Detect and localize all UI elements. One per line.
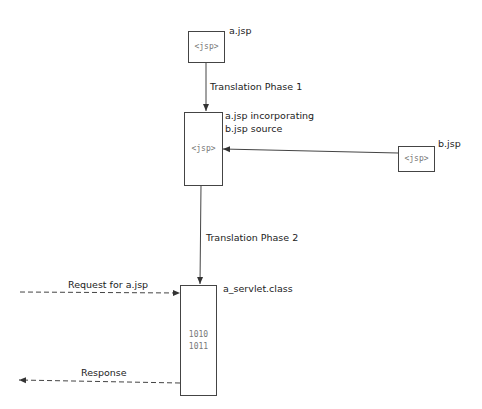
b-jsp-node: <jsp> bbox=[398, 146, 435, 172]
combined-label-line1: a.jsp incorporating bbox=[225, 110, 314, 122]
response-arrow bbox=[19, 380, 180, 383]
phase2-label: Translation Phase 2 bbox=[206, 232, 298, 244]
a-jsp-node: <jsp> bbox=[188, 31, 225, 63]
request-label: Request for a.jsp bbox=[68, 279, 148, 291]
phase2-arrow bbox=[200, 185, 201, 284]
a-jsp-content: <jsp> bbox=[194, 41, 218, 53]
jsp-translation-diagram: <jsp> a.jsp Translation Phase 1 <jsp> a.… bbox=[0, 0, 482, 409]
b-jsp-content: <jsp> bbox=[404, 153, 428, 165]
response-label: Response bbox=[81, 367, 127, 379]
combined-content: <jsp> bbox=[191, 143, 215, 155]
servlet-class-node: 1010 1011 bbox=[180, 285, 217, 396]
phase1-label: Translation Phase 1 bbox=[210, 81, 302, 93]
servlet-bytecode-line1: 1010 bbox=[189, 329, 208, 341]
combined-jsp-node: <jsp> bbox=[184, 112, 223, 186]
servlet-label: a_servlet.class bbox=[223, 283, 293, 295]
connector-layer bbox=[0, 0, 482, 409]
request-arrow bbox=[20, 292, 180, 293]
b-jsp-label: b.jsp bbox=[438, 138, 461, 150]
a-jsp-label: a.jsp bbox=[229, 25, 251, 37]
include-arrow bbox=[223, 149, 398, 153]
combined-label-line2: b.jsp source bbox=[225, 123, 282, 135]
servlet-bytecode-line2: 1011 bbox=[189, 341, 208, 353]
